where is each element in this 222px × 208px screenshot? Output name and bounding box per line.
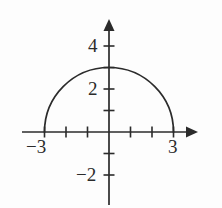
y-axis-arrowhead-icon	[104, 19, 115, 31]
y-tick-label-2: 2	[88, 79, 98, 98]
x-tick-label-3: 3	[168, 137, 178, 156]
y-tick-label--2: −2	[76, 165, 96, 184]
x-tick-label--3: −3	[26, 137, 46, 156]
y-tick-label-4: 4	[88, 36, 98, 55]
plot-canvas	[0, 0, 222, 208]
semicircle-graph-figure: −3 3 4 2 −2	[0, 0, 222, 208]
y-axis	[104, 19, 115, 205]
x-axis-arrowhead-icon	[186, 127, 198, 138]
